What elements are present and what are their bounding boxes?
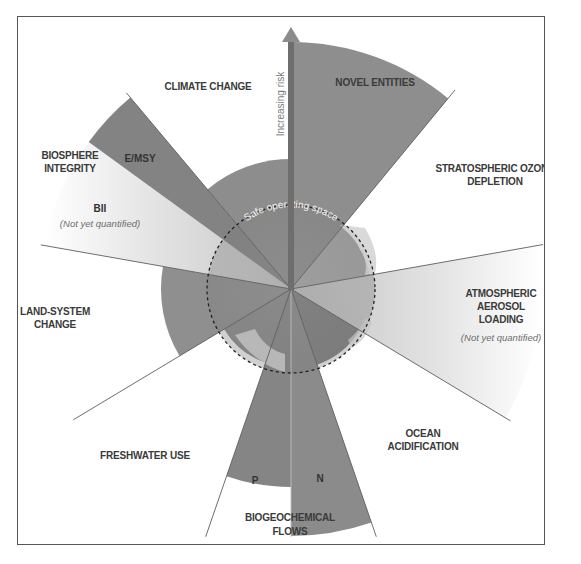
label-land-system-line1: LAND-SYSTEM bbox=[20, 306, 90, 317]
arrow-head-icon bbox=[282, 27, 300, 42]
label-emsy: E/MSY bbox=[124, 153, 155, 164]
label-biosphere-line2: INTEGRITY bbox=[44, 163, 96, 174]
label-ozone-line1: STRATOSPHERIC OZONE bbox=[435, 163, 555, 174]
label-biosphere-line1: BIOSPHERE bbox=[41, 150, 99, 161]
label-freshwater-use: FRESHWATER USE bbox=[100, 450, 190, 461]
label-nitrogen: N bbox=[316, 473, 323, 484]
label-ozone-line2: DEPLETION bbox=[467, 176, 522, 187]
label-aerosol-line2: AEROSOL bbox=[477, 301, 525, 312]
label-ocean-line2: ACIDIFICATION bbox=[387, 441, 458, 452]
label-biogeochemical-line2: FLOWS bbox=[272, 526, 308, 537]
planetary-boundaries-diagram: Safe operating space Increasing risk CLI… bbox=[0, 0, 581, 564]
label-bii: BII bbox=[94, 203, 107, 214]
label-climate-change: CLIMATE CHANGE bbox=[164, 81, 252, 92]
label-aerosol-line1: ATMOSPHERIC bbox=[466, 288, 537, 299]
increasing-risk-label: Increasing risk bbox=[275, 71, 286, 136]
label-aerosol-note: (Not yet quantified) bbox=[461, 332, 541, 343]
label-novel-entities: NOVEL ENTITIES bbox=[335, 77, 415, 88]
label-bii-note: (Not yet quantified) bbox=[60, 218, 140, 229]
label-ocean-line1: OCEAN bbox=[405, 428, 440, 439]
label-land-system-line2: CHANGE bbox=[34, 319, 77, 330]
label-phosphorus: P bbox=[252, 475, 259, 486]
label-aerosol-line3: LOADING bbox=[479, 314, 524, 325]
label-biogeochemical-line1: BIOGEOCHEMICAL bbox=[245, 512, 335, 523]
